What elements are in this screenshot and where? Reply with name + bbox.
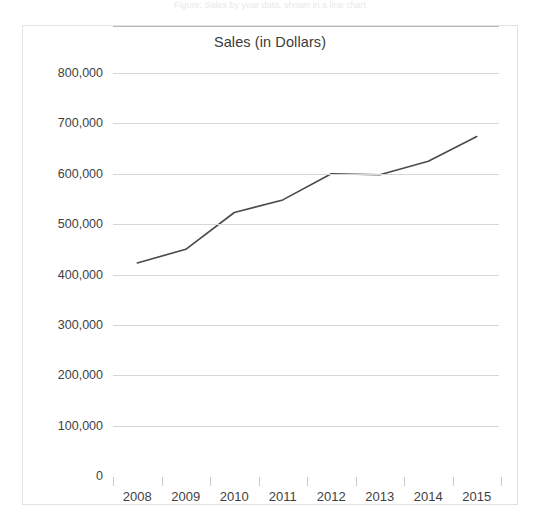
gridline-200000 — [113, 375, 499, 376]
chart-panel: Sales (in Dollars) 0100,000200,000300,00… — [22, 25, 518, 505]
gridline-800000 — [113, 73, 499, 74]
y-axis-tick-label: 100,000 — [23, 419, 103, 433]
x-axis-tick-label-2009: 2009 — [162, 489, 211, 504]
x-axis-tick-label-2013: 2013 — [356, 489, 405, 504]
x-axis-separator — [453, 477, 454, 486]
y-axis-tick-label: 0 — [23, 469, 103, 483]
gridline-500000 — [113, 224, 499, 225]
y-axis-tick-label: 700,000 — [23, 116, 103, 130]
series-line-sales — [23, 26, 519, 506]
gridline-600000 — [113, 174, 499, 175]
y-axis-tick-label: 500,000 — [23, 217, 103, 231]
x-axis-tick-label-2015: 2015 — [453, 489, 502, 504]
x-axis-separator — [210, 477, 211, 486]
x-axis-end-cap-right — [501, 477, 502, 486]
y-axis-tick-label: 800,000 — [23, 66, 103, 80]
gridline-700000 — [113, 123, 499, 124]
top-caption: Figure: Sales by year data, shown in a l… — [0, 0, 540, 10]
x-axis-tick-label-2010: 2010 — [210, 489, 259, 504]
x-axis-tick-label-2011: 2011 — [259, 489, 308, 504]
plot-area: 0100,000200,000300,000400,000500,000600,… — [23, 26, 517, 504]
gridline-100000 — [113, 426, 499, 427]
x-axis-separator — [259, 477, 260, 486]
y-axis-tick-label: 300,000 — [23, 318, 103, 332]
x-axis-end-cap-left — [113, 477, 114, 486]
x-axis-separator — [162, 477, 163, 486]
y-axis-tick-label: 200,000 — [23, 368, 103, 382]
x-axis-tick-label-2012: 2012 — [307, 489, 356, 504]
x-axis-tick-label-2014: 2014 — [404, 489, 453, 504]
x-axis-separator — [404, 477, 405, 486]
x-axis-baseline — [113, 26, 499, 27]
x-axis-tick-label-2008: 2008 — [113, 489, 162, 504]
gridline-300000 — [113, 325, 499, 326]
y-axis-tick-label: 400,000 — [23, 268, 103, 282]
y-axis-tick-label: 600,000 — [23, 167, 103, 181]
x-axis-separator — [356, 477, 357, 486]
x-axis-separator — [307, 477, 308, 486]
gridline-400000 — [113, 275, 499, 276]
